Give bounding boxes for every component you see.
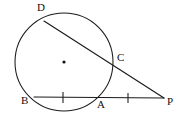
vertex-label-p: P: [167, 96, 173, 107]
vertex-label-c: C: [117, 52, 124, 63]
vertex-label-d: D: [37, 2, 45, 13]
circle-center-dot: [62, 60, 65, 63]
vertex-label-b: B: [21, 95, 28, 106]
geometry-diagram: D C B A P: [0, 0, 182, 116]
vertex-label-a: A: [97, 99, 105, 110]
secant-line-dp: [44, 21, 164, 98]
